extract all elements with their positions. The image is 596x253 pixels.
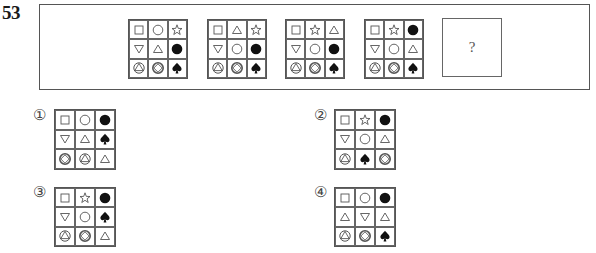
- grid-cell: [95, 149, 115, 169]
- grid-cell: [335, 188, 355, 207]
- filled-circle-icon: [327, 42, 341, 56]
- filled-circle-icon: [378, 113, 392, 127]
- filled-circle-icon: [170, 42, 184, 56]
- spade-icon: [406, 61, 420, 75]
- triangle-up-icon: [151, 42, 165, 56]
- grid-cell: [168, 59, 187, 78]
- circled-triangle-icon: [58, 229, 72, 243]
- option-3-grid[interactable]: [54, 187, 116, 247]
- option-4-grid[interactable]: [334, 187, 396, 247]
- circled-triangle-icon: [289, 61, 303, 75]
- grid-cell: [384, 39, 403, 58]
- grid-cell: [384, 20, 403, 39]
- filled-circle-icon: [406, 23, 420, 37]
- triangle-up-icon: [338, 210, 352, 224]
- option-2-grid[interactable]: [334, 109, 396, 170]
- circle-icon: [78, 210, 92, 224]
- grid-cell: [355, 149, 375, 169]
- grid-cell: [375, 149, 395, 169]
- spade-icon: [358, 152, 372, 166]
- circle-icon: [308, 42, 322, 56]
- grid-cell: [148, 59, 167, 78]
- triangle-down-icon: [358, 210, 372, 224]
- grid-cell: [286, 59, 305, 78]
- filled-circle-icon: [249, 42, 263, 56]
- grid-cell: [168, 20, 187, 39]
- grid-cell: [305, 59, 324, 78]
- grid-cell: [227, 59, 246, 78]
- grid-cell: [305, 39, 324, 58]
- grid-cell: [355, 227, 375, 246]
- grid-cell: [335, 110, 355, 130]
- square-icon: [211, 23, 225, 37]
- grid-cell: [227, 39, 246, 58]
- circle-icon: [230, 42, 244, 56]
- grid-cell: [404, 59, 423, 78]
- grid-cell: [404, 20, 423, 39]
- grid-cell: [129, 20, 148, 39]
- circled-diamond-icon: [308, 61, 322, 75]
- grid-cell: [335, 149, 355, 169]
- triangle-up-icon: [98, 229, 112, 243]
- grid-cell: [375, 130, 395, 150]
- square-icon: [368, 23, 382, 37]
- grid-cell: [335, 227, 355, 246]
- grid-cell: [227, 20, 246, 39]
- option-1-label[interactable]: ①: [33, 108, 46, 123]
- grid-cell: [75, 110, 95, 130]
- circled-diamond-icon: [230, 61, 244, 75]
- grid-cell: [335, 207, 355, 226]
- grid-cell: [404, 39, 423, 58]
- circled-triangle-icon: [132, 61, 146, 75]
- grid-cell: [95, 227, 115, 246]
- grid-cell: [55, 227, 75, 246]
- grid-cell: [247, 20, 266, 39]
- question-number: 53: [2, 2, 20, 24]
- grid-cell: [375, 188, 395, 207]
- grid-cell: [286, 20, 305, 39]
- spade-icon: [378, 229, 392, 243]
- grid-cell: [355, 207, 375, 226]
- grid-cell: [75, 149, 95, 169]
- grid-cell: [95, 130, 115, 150]
- sequence-grid-1: [128, 19, 188, 79]
- option-2-label[interactable]: ②: [314, 108, 327, 123]
- triangle-down-icon: [58, 210, 72, 224]
- circled-triangle-icon: [211, 61, 225, 75]
- circle-icon: [358, 191, 372, 205]
- grid-cell: [208, 20, 227, 39]
- circle-icon: [387, 42, 401, 56]
- grid-cell: [55, 207, 75, 226]
- grid-cell: [355, 130, 375, 150]
- grid-cell: [375, 207, 395, 226]
- circle-icon: [78, 113, 92, 127]
- grid-cell: [55, 188, 75, 207]
- grid-cell: [95, 188, 115, 207]
- grid-cell: [325, 59, 344, 78]
- option-1-grid[interactable]: [54, 109, 116, 170]
- grid-cell: [129, 59, 148, 78]
- option-4-label[interactable]: ④: [314, 185, 327, 200]
- triangle-up-icon: [406, 42, 420, 56]
- grid-cell: [365, 59, 384, 78]
- circled-diamond-icon: [58, 152, 72, 166]
- star-icon: [249, 23, 263, 37]
- option-3-label[interactable]: ③: [33, 185, 46, 200]
- circled-diamond-icon: [358, 229, 372, 243]
- star-icon: [308, 23, 322, 37]
- triangle-up-icon: [378, 132, 392, 146]
- answer-placeholder-box: ?: [442, 18, 502, 77]
- grid-cell: [375, 227, 395, 246]
- triangle-down-icon: [211, 42, 225, 56]
- sequence-grid-3: [285, 19, 345, 79]
- grid-cell: [129, 39, 148, 58]
- star-icon: [78, 191, 92, 205]
- grid-cell: [75, 227, 95, 246]
- circled-triangle-icon: [338, 229, 352, 243]
- grid-cell: [95, 110, 115, 130]
- grid-cell: [325, 39, 344, 58]
- star-icon: [170, 23, 184, 37]
- grid-cell: [325, 20, 344, 39]
- sequence-grid-4: [364, 19, 424, 79]
- grid-cell: [335, 130, 355, 150]
